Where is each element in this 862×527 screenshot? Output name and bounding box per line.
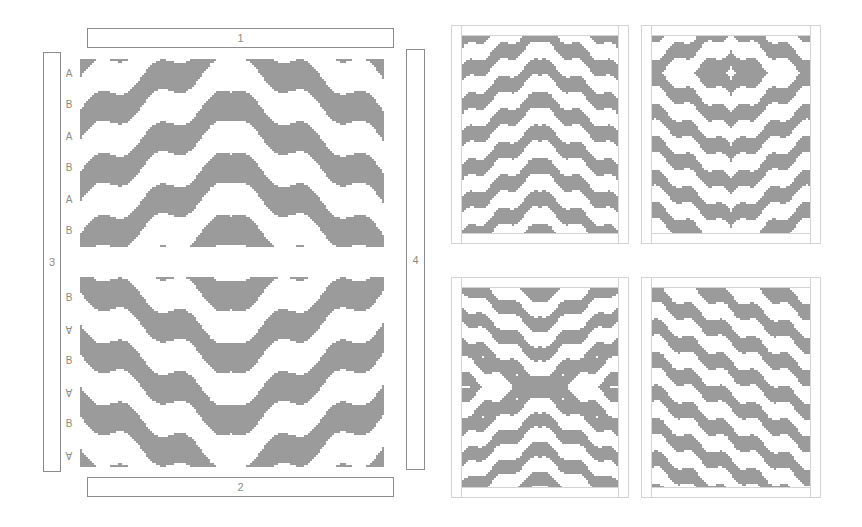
border-label-2: 2 (237, 481, 243, 493)
row-label: B (62, 355, 76, 367)
main-quilt-pattern-bottom (80, 277, 384, 467)
row-label: B (62, 99, 76, 111)
row-label: B (62, 292, 76, 304)
border-strip-3: 3 (43, 52, 61, 472)
border-strip-4: 4 (406, 49, 425, 470)
row-label-rotated: A (62, 386, 76, 398)
row-label: A (62, 194, 76, 206)
variation-2-pattern (641, 25, 821, 244)
row-label: A (62, 68, 76, 80)
border-strip-1: 1 (87, 28, 394, 48)
row-label: B (62, 162, 76, 174)
row-label: A (62, 131, 76, 143)
main-quilt-pattern-top (80, 59, 384, 247)
variation-3-pattern (451, 277, 629, 498)
border-strip-2: 2 (87, 477, 394, 497)
row-label: B (62, 225, 76, 237)
border-label-3: 3 (49, 256, 55, 268)
variation-4-pattern (641, 277, 821, 498)
row-label-rotated: A (62, 449, 76, 461)
border-label-4: 4 (412, 254, 418, 266)
variation-panel-4 (641, 277, 821, 498)
border-label-1: 1 (237, 32, 243, 44)
variation-panel-3 (451, 277, 629, 498)
row-label: B (62, 418, 76, 430)
variation-1-pattern (451, 25, 629, 244)
variation-panel-1 (451, 25, 629, 244)
variation-panel-2 (641, 25, 821, 244)
row-label-rotated: A (62, 323, 76, 335)
